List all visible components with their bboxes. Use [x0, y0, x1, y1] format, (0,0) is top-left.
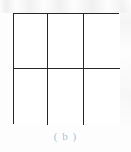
grid-cell-r2c1 [14, 69, 48, 125]
figure-caption: ( b ) [0, 130, 131, 142]
grid-cell-r2c2 [48, 69, 84, 125]
grid-cell-r1c1 [14, 14, 48, 69]
grid-cell-r1c2 [48, 14, 84, 69]
grid-cell-r1c3 [84, 14, 120, 69]
scan-noise-top [0, 0, 131, 13]
grid-figure [13, 13, 119, 124]
figure-panel: ( b ) [0, 0, 131, 152]
grid-cell-r2c3 [84, 69, 120, 125]
